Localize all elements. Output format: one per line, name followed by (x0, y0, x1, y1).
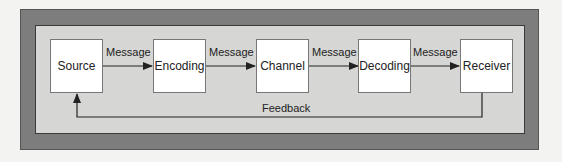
node-label: Receiver (463, 59, 510, 73)
node-encoding: Encoding (153, 39, 206, 93)
edge-label-message: Message (312, 46, 357, 58)
node-label: Encoding (154, 59, 204, 73)
node-receiver: Receiver (460, 39, 513, 93)
node-channel: Channel (256, 39, 309, 93)
edge-label-message: Message (106, 46, 151, 58)
node-source: Source (50, 39, 103, 93)
node-decoding: Decoding (358, 39, 411, 93)
edge-label-message: Message (413, 46, 458, 58)
node-label: Decoding (359, 59, 410, 73)
node-label: Source (57, 59, 95, 73)
edge-label-message: Message (209, 46, 254, 58)
edge-label-feedback: Feedback (262, 102, 310, 114)
node-label: Channel (260, 59, 305, 73)
